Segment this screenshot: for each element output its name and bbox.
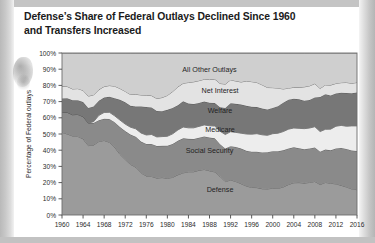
x-tick-label: 1960: [55, 221, 70, 228]
series-label-medicare: Medicare: [205, 125, 235, 134]
x-tick-label: 1964: [76, 221, 91, 228]
stacked-area-chart: 0%10%20%30%40%50%60%70%80%90%100%1960196…: [0, 0, 375, 243]
x-tick-label: 1996: [244, 221, 259, 228]
series-label-all-other-outlays: All Other Outlays: [182, 65, 237, 74]
x-tick-label: 2008: [308, 221, 323, 228]
x-tick-label: 1968: [97, 221, 112, 228]
y-tick-label: 40%: [43, 147, 56, 154]
chart-svg: 0%10%20%30%40%50%60%70%80%90%100%1960196…: [0, 0, 375, 243]
y-tick-label: 20%: [43, 179, 56, 186]
x-tick-label: 2012: [329, 221, 344, 228]
series-label-defense: Defense: [207, 185, 234, 194]
y-tick-label: 0%: [46, 212, 56, 219]
x-tick-label: 1988: [202, 221, 217, 228]
x-tick-label: 1972: [118, 221, 133, 228]
x-tick-label: 2000: [265, 221, 280, 228]
series-label-welfare: Welfare: [208, 106, 233, 115]
x-tick-label: 1980: [160, 221, 175, 228]
y-tick-label: 70%: [43, 98, 56, 105]
x-tick-label: 1976: [139, 221, 154, 228]
x-tick-label: 1992: [223, 221, 238, 228]
y-tick-label: 30%: [43, 163, 56, 170]
y-tick-label: 100%: [39, 50, 56, 57]
y-tick-label: 90%: [43, 66, 56, 73]
x-tick-label: 2016: [350, 221, 365, 228]
y-tick-label: 80%: [43, 82, 56, 89]
series-label-social-security: Social Security: [186, 146, 234, 155]
y-tick-label: 60%: [43, 114, 56, 121]
page-background: Defense’s Share of Federal Outlays Decli…: [0, 0, 375, 243]
y-tick-label: 50%: [43, 131, 56, 138]
series-label-net-interest: Net Interest: [201, 86, 238, 95]
y-tick-label: 10%: [43, 195, 56, 202]
x-tick-label: 1984: [181, 221, 196, 228]
x-tick-label: 2004: [286, 221, 301, 228]
y-axis-title: Percentage of Federal outlays: [25, 89, 33, 178]
